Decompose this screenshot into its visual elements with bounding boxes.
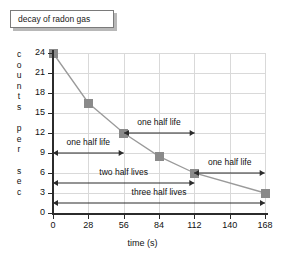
x-tick: [159, 214, 160, 219]
x-tick-label: 56: [111, 221, 137, 230]
y-tick-label: 9: [27, 148, 45, 157]
half-life-label: three half lives: [53, 188, 265, 197]
x-tick-label: 0: [40, 221, 66, 230]
y-tick: [48, 93, 53, 94]
x-tick-label: 84: [146, 221, 172, 230]
y-tick: [48, 113, 53, 114]
x-tick: [265, 214, 266, 219]
decay-chart: one half lifeone half lifeone half lifet…: [0, 0, 285, 262]
x-tick-label: 112: [181, 221, 207, 230]
y-tick: [48, 133, 53, 134]
x-tick-label: 168: [252, 221, 278, 230]
x-axis-line: [52, 213, 268, 215]
y-tick-label: 15: [27, 108, 45, 117]
y-tick-label: 3: [27, 188, 45, 197]
y-tick-label: 12: [27, 128, 45, 137]
half-life-label: one half life: [124, 118, 195, 127]
x-axis-title: time (s): [0, 238, 285, 248]
half-life-label: two half lives: [53, 168, 194, 177]
data-point-marker: [84, 99, 93, 108]
half-life-arrow: [53, 148, 124, 158]
y-tick-label: 0: [27, 208, 45, 217]
x-tick-label: 28: [75, 221, 101, 230]
y-tick: [48, 153, 53, 154]
x-tick-label: 140: [217, 221, 243, 230]
y-tick-label: 6: [27, 168, 45, 177]
y-tick-label: 18: [27, 88, 45, 97]
y-tick: [48, 53, 53, 54]
y-axis-title: counts.per.sec: [13, 50, 25, 198]
x-tick: [88, 214, 89, 219]
plot-area: one half lifeone half lifeone half lifet…: [53, 53, 265, 213]
x-tick: [194, 214, 195, 219]
y-axis-title-letter: s: [13, 103, 25, 114]
half-life-arrow: [53, 198, 265, 208]
y-tick: [48, 193, 53, 194]
half-life-arrow: [194, 168, 265, 178]
y-tick: [48, 73, 53, 74]
half-life-label: one half life: [53, 138, 124, 147]
data-point-marker: [155, 152, 164, 161]
y-axis-title-letter: r: [13, 145, 25, 156]
half-life-label: one half life: [194, 158, 265, 167]
y-tick-label: 24: [27, 48, 45, 57]
x-tick: [53, 214, 54, 219]
y-axis-title-letter: c: [13, 50, 25, 61]
x-tick: [124, 214, 125, 219]
x-tick: [230, 214, 231, 219]
y-axis-title-letter: c: [13, 188, 25, 199]
y-tick-label: 21: [27, 68, 45, 77]
y-tick: [48, 173, 53, 174]
half-life-arrow: [124, 128, 195, 138]
